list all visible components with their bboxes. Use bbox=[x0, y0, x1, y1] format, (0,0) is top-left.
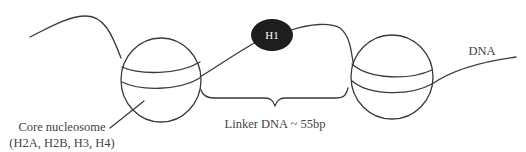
dna-strand-to-h1 bbox=[200, 42, 256, 77]
core-label-line1: Core nucleosome bbox=[18, 120, 106, 134]
sphere-band-lower bbox=[122, 78, 200, 88]
dna-strand-left bbox=[30, 16, 121, 58]
linker-label: Linker DNA ~ 55bp bbox=[225, 117, 326, 131]
sphere-band-upper bbox=[352, 64, 432, 77]
histone-h1: H1 bbox=[251, 19, 293, 51]
nucleosome-diagram: H1 DNA Linker DNA ~ 55bp Core nucleosome… bbox=[0, 0, 526, 152]
h1-label: H1 bbox=[265, 29, 278, 41]
linker-brace bbox=[201, 88, 348, 106]
dna-strand-from-h1 bbox=[291, 24, 353, 62]
core-nucleosome-right bbox=[351, 35, 433, 119]
dna-label: DNA bbox=[468, 44, 495, 58]
dna-strand-right bbox=[432, 57, 516, 84]
core-label-line2: (H2A, H2B, H3, H4) bbox=[9, 136, 115, 150]
sphere-band-lower bbox=[352, 81, 432, 93]
sphere-band-upper bbox=[122, 62, 200, 72]
